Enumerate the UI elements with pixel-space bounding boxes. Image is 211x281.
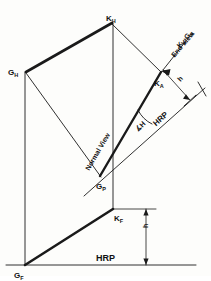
label-ka: KA	[154, 73, 164, 89]
label-gh: GH	[8, 62, 18, 78]
label-kh: KH	[106, 8, 116, 24]
line-kh-ka	[112, 24, 161, 72]
label-hrp-bottom: HRP	[96, 254, 115, 263]
label-h-front: h	[142, 224, 149, 228]
label-gp: GP	[96, 176, 106, 192]
line-gh-kh	[26, 23, 112, 72]
label-kf: KF	[114, 208, 123, 224]
dimension-h-aux-arrow-bottom	[183, 94, 190, 100]
label-gf: GF	[14, 265, 24, 281]
dimension-h-front-arrow-top	[143, 209, 148, 215]
hrp-diagonal-end-tick	[198, 82, 206, 96]
dimension-h-front-arrow-bottom	[143, 259, 148, 265]
